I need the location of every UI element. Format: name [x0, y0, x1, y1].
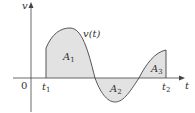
origin-label: 0	[21, 80, 27, 91]
shaded-area	[46, 28, 166, 102]
x-axis-label: t	[185, 80, 190, 91]
y-axis-label: v	[22, 0, 28, 11]
t2-label: t2	[162, 81, 171, 94]
y-axis-arrow-icon	[29, 2, 34, 8]
curve-label: v(t)	[83, 28, 101, 39]
velocity-area-diagram: v t 0 v(t) t1 t2 A1 A2 A3	[0, 0, 195, 113]
t1-label: t1	[42, 81, 51, 94]
